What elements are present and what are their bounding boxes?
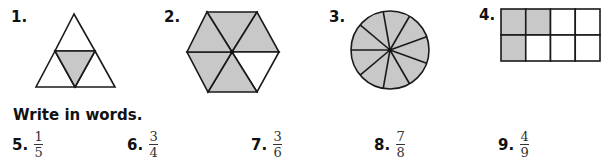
denominator: 5 (35, 146, 43, 159)
exercise-number: 5. (12, 136, 28, 154)
exercise-7: 7. 3 6 (251, 130, 282, 159)
denominator: 4 (150, 146, 158, 159)
exercise-number: 8. (374, 136, 390, 154)
exercise-number: 7. (251, 136, 267, 154)
exercise-9: 9. 4 9 (498, 130, 529, 159)
triangle-part-top (55, 14, 95, 51)
grid-cell (575, 35, 600, 61)
denominator: 8 (397, 146, 405, 159)
circle-center-dot (388, 48, 392, 52)
hexagon-figure (187, 12, 279, 92)
fraction: 7 8 (396, 130, 405, 159)
grid-figure (501, 9, 600, 61)
fraction: 1 5 (34, 130, 43, 159)
grid-cell (526, 35, 551, 61)
grid-cell (551, 9, 576, 35)
exercise-5: 5. 1 5 (12, 130, 43, 159)
numerator: 1 (35, 130, 43, 143)
exercise-8: 8. 7 8 (374, 130, 405, 159)
grid-cell (575, 9, 600, 35)
grid-cell-shaded (501, 35, 526, 61)
figures-canvas (0, 0, 613, 100)
triangle-figure (36, 14, 115, 87)
numerator: 3 (274, 130, 282, 143)
numerator: 3 (150, 130, 158, 143)
exercise-number: 9. (498, 136, 514, 154)
grid-cell (551, 35, 576, 61)
exercise-number: 6. (127, 136, 143, 154)
fraction: 4 9 (520, 130, 529, 159)
exercise-6: 6. 3 4 (127, 130, 158, 159)
denominator: 9 (521, 146, 529, 159)
numerator: 7 (397, 130, 405, 143)
hexagon-center-dot (230, 50, 234, 54)
numerator: 4 (521, 130, 529, 143)
fraction: 3 6 (273, 130, 282, 159)
grid-cell-shaded (526, 9, 551, 35)
fraction: 3 4 (149, 130, 158, 159)
instruction-text: Write in words. (13, 106, 142, 124)
circle-figure (351, 11, 429, 89)
denominator: 6 (274, 146, 282, 159)
grid-cell-shaded (501, 9, 526, 35)
